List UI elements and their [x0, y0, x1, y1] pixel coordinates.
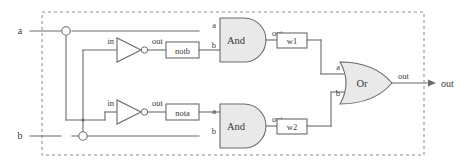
output-arrow-icon — [428, 80, 436, 87]
signal-box-nota-label: nota — [175, 108, 190, 118]
input-label-b: b — [18, 130, 23, 141]
output-label-out: out — [441, 78, 454, 89]
input-label-a: a — [18, 25, 23, 36]
signal-box-w1-label: w1 — [287, 36, 297, 46]
and-gate-top-label: And — [227, 35, 246, 46]
not-gate-nota-triangle — [117, 100, 141, 124]
and-gate-bottom-port-a: a — [212, 106, 216, 116]
or-gate-label: Or — [356, 78, 368, 89]
not-gate-nota-bubble — [141, 109, 147, 115]
not-gate-notb-triangle — [117, 38, 141, 62]
signal-box-w2[interactable]: w2 — [277, 119, 307, 134]
node-a-branch-tap — [81, 118, 84, 121]
signal-box-w1[interactable]: w1 — [277, 33, 307, 48]
node-b-junction — [79, 132, 87, 140]
and-gate-bottom-port-b: b — [212, 126, 216, 136]
not-gate-notb-bubble — [141, 47, 147, 53]
not-gate-nota-in-label: in — [107, 98, 114, 108]
and-gate-top-port-a: a — [212, 20, 216, 30]
and-gate-bottom-label: And — [227, 121, 246, 132]
not-gate-nota-out-label: out — [152, 98, 164, 108]
not-gate-notb-out-label: out — [152, 36, 164, 46]
signal-box-notb[interactable]: notb — [166, 42, 199, 58]
or-gate-port-out: out — [398, 71, 410, 81]
or-gate-port-a: a — [336, 62, 340, 72]
signal-box-nota[interactable]: nota — [166, 104, 199, 120]
and-gate-top-port-b: b — [212, 40, 216, 50]
node-a-junction — [62, 27, 70, 35]
circuit-diagram-canvas: a b in out — [0, 0, 466, 168]
or-gate-port-b: b — [336, 88, 340, 98]
not-gate-nota[interactable]: in out — [107, 98, 163, 124]
not-gate-notb-in-label: in — [107, 36, 114, 46]
not-gate-notb[interactable]: in out — [107, 36, 163, 62]
signal-box-notb-label: notb — [175, 46, 190, 56]
signal-box-w2-label: w2 — [287, 122, 297, 132]
